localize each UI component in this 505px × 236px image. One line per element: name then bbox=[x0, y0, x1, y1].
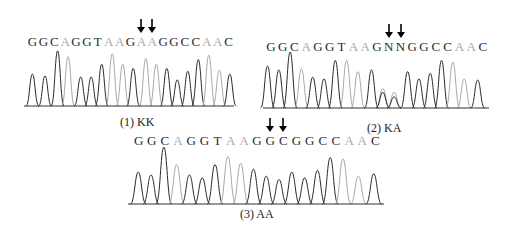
down-arrow-icon bbox=[384, 24, 394, 38]
down-arrow-icon bbox=[147, 19, 157, 33]
down-arrow-icon bbox=[136, 19, 146, 33]
chromatogram-trace bbox=[24, 46, 234, 110]
down-arrow-icon bbox=[278, 118, 288, 132]
chromatogram-trace bbox=[128, 144, 384, 208]
panel-caption: (3) AA bbox=[240, 207, 274, 222]
down-arrow-icon bbox=[265, 118, 275, 132]
chromatogram-panel-1: GGCAGGTAAGAAGGCCAAC(1) KK bbox=[24, 14, 236, 129]
chromatogram-panel-3: GGCAGGTAAGGCGGCCAAC(3) AA bbox=[128, 114, 386, 229]
down-arrow-icon bbox=[396, 24, 406, 38]
chromatogram-trace bbox=[263, 50, 489, 112]
